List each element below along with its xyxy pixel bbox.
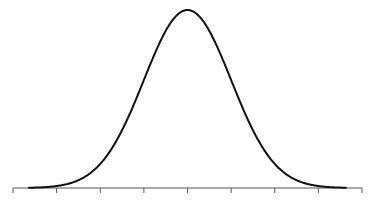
x-axis-ticks bbox=[13, 188, 362, 193]
bell-curve-chart bbox=[0, 0, 373, 204]
normal-distribution-curve bbox=[28, 10, 346, 188]
